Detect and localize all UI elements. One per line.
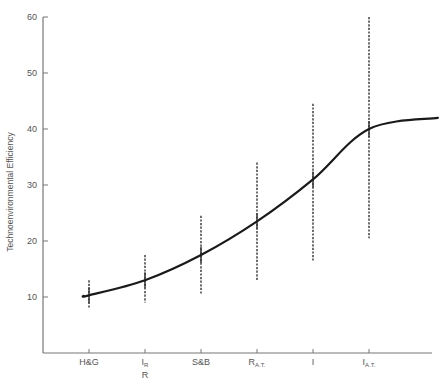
x-tick-label: IA.T. — [363, 357, 376, 368]
y-tick-label: 20 — [27, 236, 37, 246]
y-tick-label: 10 — [27, 292, 37, 302]
fitted-curve — [83, 118, 438, 297]
y-tick-label: 50 — [27, 68, 37, 78]
x-tick-sublabel: R — [142, 370, 149, 380]
y-axis-title: Technoenvironmental Efficiency — [5, 132, 15, 252]
error-bars — [89, 17, 369, 308]
chart: 102030405060 H&GIRRS&BRA.T.IIA.T. Techno… — [0, 0, 442, 385]
axes — [43, 17, 432, 353]
x-axis-ticks: H&GIRRS&BRA.T.IIA.T. — [79, 349, 376, 380]
y-tick-label: 60 — [27, 12, 37, 22]
x-tick-label: I — [312, 357, 315, 367]
x-tick-label: H&G — [79, 357, 99, 367]
y-tick-label: 40 — [27, 124, 37, 134]
x-tick-label: S&B — [192, 357, 210, 367]
x-tick-label: IR — [142, 357, 150, 368]
y-tick-label: 30 — [27, 180, 37, 190]
y-axis-ticks: 102030405060 — [27, 12, 48, 302]
x-tick-label: RA.T. — [249, 357, 266, 368]
